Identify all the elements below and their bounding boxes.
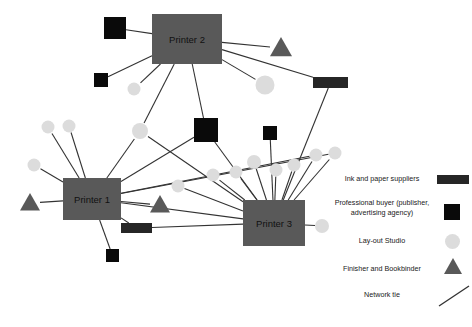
- layout-studio-node[interactable]: [207, 169, 220, 182]
- network-tie-edge: [121, 203, 243, 219]
- network-tie-edge: [152, 224, 243, 227]
- rect-swatch-icon: [437, 175, 469, 184]
- network-tie-edge: [222, 60, 256, 80]
- network-tie-edge: [192, 64, 203, 118]
- printer-node-label: Printer 1: [74, 194, 110, 205]
- finisher-bookbinder-node[interactable]: [20, 193, 40, 211]
- network-tie-edge: [121, 218, 129, 223]
- node-layer: [20, 14, 348, 262]
- network-tie-edge: [256, 169, 266, 200]
- printer-node-label: Printer 2: [169, 34, 205, 45]
- network-tie-edge: [40, 201, 63, 202]
- legend-label-tie: Network tie: [333, 290, 431, 300]
- legend-label-studio: Lay-out Studio: [333, 236, 431, 246]
- network-tie-edge: [121, 137, 194, 181]
- network-tie-edge: [108, 56, 152, 77]
- professional-buyer-node[interactable]: [94, 73, 108, 87]
- network-tie-edge: [283, 88, 328, 200]
- layout-studio-node[interactable]: [310, 149, 323, 162]
- network-tie-edge: [222, 42, 270, 47]
- network-tie-edge: [141, 64, 161, 83]
- network-tie-edge: [41, 169, 64, 182]
- layout-studio-node[interactable]: [42, 121, 55, 134]
- printer-node-label: Printer 3: [256, 218, 292, 229]
- network-tie-edge: [107, 139, 135, 178]
- ink-paper-supplier-node[interactable]: [121, 223, 152, 233]
- network-tie-edge: [148, 136, 243, 201]
- legend: Ink and paper suppliers Professional buy…: [333, 174, 472, 299]
- network-tie-edge: [100, 220, 111, 249]
- network-tie-edge: [126, 30, 152, 34]
- network-tie-edge: [275, 177, 276, 201]
- network-tie-edge: [52, 134, 79, 179]
- network-diagram-canvas: Printer 1Printer 2Printer 3 Ink and pape…: [0, 0, 472, 327]
- circle-swatch-icon: [445, 234, 460, 249]
- layout-studio-node[interactable]: [172, 180, 185, 193]
- network-tie-edge: [71, 133, 85, 179]
- layout-studio-node[interactable]: [230, 166, 243, 179]
- professional-buyer-node[interactable]: [194, 118, 218, 142]
- network-tie-edge: [144, 64, 174, 123]
- finisher-bookbinder-node[interactable]: [150, 195, 170, 213]
- layout-studio-node[interactable]: [270, 164, 283, 177]
- legend-label-suppliers: Ink and paper suppliers: [333, 174, 431, 184]
- layout-studio-node[interactable]: [247, 155, 261, 169]
- network-tie-edge: [241, 179, 257, 201]
- legend-label-buyer: Professional buyer (publisher, advertisi…: [333, 198, 431, 217]
- layout-studio-node[interactable]: [128, 83, 141, 96]
- layout-studio-node[interactable]: [329, 147, 342, 160]
- layout-studio-node[interactable]: [28, 159, 41, 172]
- layout-studio-node[interactable]: [63, 120, 76, 133]
- professional-buyer-node[interactable]: [106, 249, 119, 262]
- network-tie-edge: [305, 225, 315, 226]
- professional-buyer-node[interactable]: [263, 126, 277, 140]
- triangle-swatch-icon: [444, 258, 462, 274]
- line-swatch-icon: [437, 284, 472, 308]
- layout-studio-node[interactable]: [288, 159, 301, 172]
- ink-paper-supplier-node[interactable]: [313, 77, 348, 88]
- network-tie-edge: [220, 180, 245, 200]
- professional-buyer-node[interactable]: [104, 17, 126, 39]
- layout-studio-node[interactable]: [256, 76, 275, 95]
- square-swatch-icon: [444, 204, 460, 220]
- layout-studio-node[interactable]: [132, 123, 148, 139]
- finisher-bookbinder-node[interactable]: [270, 37, 292, 56]
- layout-studio-node[interactable]: [315, 219, 329, 233]
- network-tie-edge: [222, 50, 313, 78]
- legend-label-finisher: Finisher and Bookbinder: [333, 264, 431, 274]
